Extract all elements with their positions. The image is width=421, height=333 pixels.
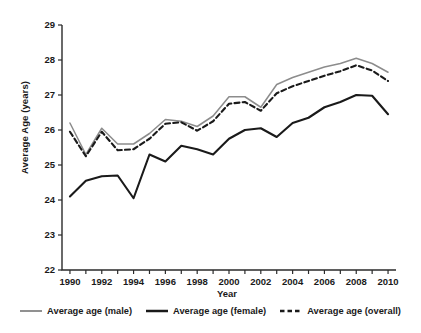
legend-item[interactable]: Average age (overall) xyxy=(280,306,401,316)
y-tick-label: 25 xyxy=(44,159,55,170)
y-tick-label: 24 xyxy=(44,194,55,205)
x-tick-label: 2000 xyxy=(218,276,239,287)
chart-container: Average Age (years) 2223242526272829 199… xyxy=(0,0,421,333)
series-line xyxy=(70,95,388,198)
x-tick-label: 2002 xyxy=(250,276,271,287)
legend-swatch-icon xyxy=(280,306,302,316)
legend-swatch-icon xyxy=(146,306,168,316)
x-tick-label: 1998 xyxy=(187,276,208,287)
x-tick-label: 1994 xyxy=(123,276,145,287)
x-axis-ticks: 1990199219941996199820002002200420062008… xyxy=(59,270,398,287)
legend-label: Average age (male) xyxy=(47,306,132,316)
y-tick-label: 22 xyxy=(44,264,55,275)
data-series-group xyxy=(70,58,388,198)
x-tick-label: 2010 xyxy=(377,276,398,287)
chart-legend: Average age (male)Average age (female)Av… xyxy=(0,306,421,316)
x-axis-title: Year xyxy=(62,288,392,299)
y-tick-label: 27 xyxy=(44,89,55,100)
legend-swatch-icon xyxy=(20,306,42,316)
legend-label: Average age (overall) xyxy=(307,306,401,316)
x-tick-label: 1996 xyxy=(155,276,176,287)
y-tick-label: 29 xyxy=(44,19,55,30)
series-line xyxy=(70,65,388,156)
y-tick-label: 26 xyxy=(44,124,55,135)
y-tick-label: 23 xyxy=(44,229,55,240)
line-chart-plot: 2223242526272829 19901992199419961998200… xyxy=(0,0,421,333)
x-tick-label: 2008 xyxy=(346,276,367,287)
legend-item[interactable]: Average age (male) xyxy=(20,306,132,316)
x-tick-label: 2004 xyxy=(282,276,304,287)
x-tick-label: 1992 xyxy=(91,276,112,287)
legend-label: Average age (female) xyxy=(173,306,266,316)
y-tick-label: 28 xyxy=(44,54,55,65)
x-tick-label: 1990 xyxy=(59,276,80,287)
x-tick-label: 2006 xyxy=(314,276,335,287)
y-axis-ticks: 2223242526272829 xyxy=(44,19,62,275)
legend-item[interactable]: Average age (female) xyxy=(146,306,266,316)
